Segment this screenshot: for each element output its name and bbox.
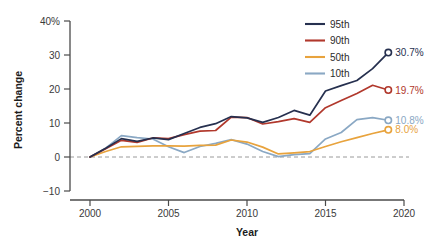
x-tick-label: 2005 xyxy=(157,208,180,219)
end-marker-10th xyxy=(385,117,391,123)
y-tick-label: 40% xyxy=(40,16,60,27)
series-end-markers xyxy=(385,49,391,133)
x-axis-title: Year xyxy=(236,226,258,238)
y-tick-label: 10 xyxy=(49,118,61,129)
line-chart: −10010203040% 20002005201020152020 30.7%… xyxy=(0,0,446,242)
end-label-10th: 10.8% xyxy=(395,115,423,126)
end-marker-90th xyxy=(385,87,391,93)
chart-figure: −10010203040% 20002005201020152020 30.7%… xyxy=(0,0,446,242)
y-tick-label: 30 xyxy=(49,50,61,61)
series-end-labels: 30.7%19.7%8.0%10.8% xyxy=(395,47,423,135)
legend-label-50th: 50th xyxy=(330,52,349,63)
y-axis-title: Percent change xyxy=(12,71,24,149)
legend-label-90th: 90th xyxy=(330,35,349,46)
y-axis-tick-labels: −10010203040% xyxy=(40,16,60,197)
chart-axes xyxy=(70,21,404,200)
x-axis-tick-labels: 20002005201020152020 xyxy=(79,208,416,219)
series-line-50th xyxy=(90,130,388,157)
x-tick-label: 2015 xyxy=(314,208,337,219)
chart-legend: 95th90th50th10th xyxy=(305,19,349,80)
y-tick-label: 20 xyxy=(49,84,61,95)
x-tick-label: 2010 xyxy=(236,208,259,219)
x-tick-label: 2000 xyxy=(79,208,102,219)
end-label-95th: 30.7% xyxy=(395,47,423,58)
end-marker-95th xyxy=(385,49,391,55)
end-label-50th: 8.0% xyxy=(395,124,418,135)
y-tick-label: 0 xyxy=(54,152,60,163)
end-label-90th: 19.7% xyxy=(395,85,423,96)
legend-label-10th: 10th xyxy=(330,68,349,79)
x-tick-label: 2020 xyxy=(393,208,416,219)
series-line-10th xyxy=(90,118,388,157)
end-marker-50th xyxy=(385,127,391,133)
y-tick-label: −10 xyxy=(43,186,60,197)
axis-ticks xyxy=(64,21,404,206)
legend-label-95th: 95th xyxy=(330,19,349,30)
